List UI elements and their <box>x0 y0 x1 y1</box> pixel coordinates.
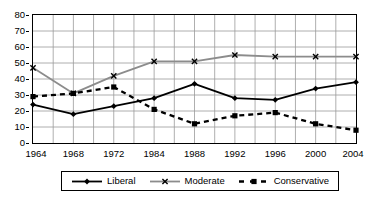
series-liberal <box>30 79 359 117</box>
y-tick-label: 60 <box>14 42 25 52</box>
x-tick-label: 1988 <box>184 149 205 159</box>
data-point-marker <box>353 128 358 133</box>
line-diamond-marker-icon <box>71 176 103 187</box>
y-tick-mark <box>26 63 29 64</box>
y-tick-label: 20 <box>14 106 25 116</box>
data-point-marker <box>111 103 117 109</box>
series-conservative <box>30 84 358 132</box>
y-tick-label: 50 <box>14 58 25 68</box>
y-tick-mark <box>26 127 29 128</box>
data-point-marker <box>71 91 76 96</box>
y-tick-mark <box>26 143 29 144</box>
legend-item-liberal[interactable]: Liberal <box>71 176 136 187</box>
data-point-marker <box>313 86 319 92</box>
plot-area <box>32 14 357 144</box>
data-point-marker <box>192 121 197 126</box>
data-series-layer <box>33 15 356 143</box>
data-point-marker <box>30 94 35 99</box>
x-axis: 196419681972198419881992199620002004 <box>32 147 357 163</box>
legend-label: Conservative <box>274 176 329 186</box>
x-tick-label: 2000 <box>305 149 326 159</box>
data-point-marker <box>30 65 35 70</box>
y-tick-label: 40 <box>14 74 25 84</box>
y-tick-label: 70 <box>14 26 25 36</box>
legend-label: Moderate <box>185 176 225 186</box>
legend-item-moderate[interactable]: Moderate <box>149 176 225 187</box>
line-cross-marker-icon <box>149 176 181 187</box>
y-tick-label: 80 <box>14 10 25 20</box>
x-tick-label: 1972 <box>103 149 124 159</box>
legend-label: Liberal <box>107 176 136 186</box>
y-tick-mark <box>26 31 29 32</box>
data-point-marker <box>272 97 278 103</box>
data-point-marker <box>232 113 237 118</box>
data-point-marker <box>273 110 278 115</box>
y-tick-label: 0 <box>20 138 25 148</box>
y-tick-label: 30 <box>14 90 25 100</box>
x-tick-label: 1968 <box>63 149 84 159</box>
data-point-marker <box>70 111 76 117</box>
x-tick-label: 1992 <box>224 149 245 159</box>
y-tick-mark <box>26 95 29 96</box>
x-tick-label: 1964 <box>25 149 46 159</box>
legend-marker <box>84 178 90 184</box>
series-line <box>33 82 356 114</box>
y-tick-mark <box>26 47 29 48</box>
y-tick-label: 10 <box>14 122 25 132</box>
legend-marker <box>251 178 256 183</box>
y-axis: 80706050403020100 <box>0 14 29 144</box>
y-tick-mark <box>26 15 29 16</box>
data-point-marker <box>151 95 157 101</box>
x-tick-label: 1984 <box>144 149 165 159</box>
data-point-marker <box>111 84 116 89</box>
legend-item-conservative[interactable]: Conservative <box>238 176 329 187</box>
x-tick-label: 2004 <box>342 149 363 159</box>
data-point-marker <box>353 79 359 85</box>
data-point-marker <box>192 81 198 87</box>
data-point-marker <box>232 95 238 101</box>
y-tick-mark <box>26 79 29 80</box>
line-chart: 80706050403020100 1964196819721984198819… <box>0 0 379 201</box>
y-tick-mark <box>26 111 29 112</box>
data-point-marker <box>313 121 318 126</box>
dashed-line-square-marker-icon <box>238 176 270 187</box>
data-point-marker <box>30 102 36 108</box>
x-tick-label: 1996 <box>265 149 286 159</box>
chart-legend: LiberalModerateConservative <box>61 171 339 191</box>
data-point-marker <box>152 107 157 112</box>
